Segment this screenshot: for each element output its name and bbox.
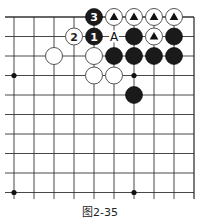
black-stone: 1 bbox=[86, 28, 103, 45]
white-stone bbox=[86, 48, 103, 65]
black-stone bbox=[146, 48, 163, 65]
star-point bbox=[131, 73, 136, 78]
white-stone bbox=[86, 67, 103, 84]
white-stone: 2 bbox=[66, 28, 83, 45]
white-stone bbox=[106, 9, 123, 26]
move-number: 3 bbox=[90, 11, 98, 24]
black-stone bbox=[126, 28, 143, 45]
white-stone bbox=[166, 9, 183, 26]
star-point bbox=[11, 190, 16, 195]
figure-caption: 图2-35 bbox=[0, 203, 200, 219]
white-stone bbox=[46, 48, 63, 65]
move-number: 1 bbox=[90, 31, 98, 44]
white-stone bbox=[146, 28, 163, 45]
point-label: A bbox=[110, 30, 119, 44]
move-number: 2 bbox=[70, 31, 78, 44]
white-stone bbox=[146, 9, 163, 26]
white-stone bbox=[126, 9, 143, 26]
board-grid bbox=[5, 17, 194, 199]
black-stone bbox=[126, 48, 143, 65]
star-point bbox=[131, 190, 136, 195]
star-point bbox=[11, 73, 16, 78]
black-stone bbox=[106, 48, 123, 65]
point-labels: A bbox=[109, 30, 119, 44]
white-stone bbox=[106, 67, 123, 84]
go-board-diagram: 321 A bbox=[0, 0, 200, 205]
black-stone bbox=[166, 28, 183, 45]
black-stone bbox=[126, 87, 143, 104]
black-stone: 3 bbox=[86, 9, 103, 26]
black-stone bbox=[166, 48, 183, 65]
